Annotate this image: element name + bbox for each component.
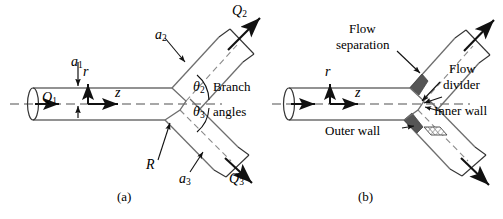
label-axis-r-a: r [83,65,88,79]
caption-a: (a) [117,190,131,203]
a2-leader [165,38,185,62]
label-flow-separation-line1: Flow [349,22,376,35]
label-a3: a3 [179,172,191,188]
coordinate-axes-a [88,84,118,104]
label-axis-r-b: r [325,65,330,79]
r-radius-leader [158,123,170,160]
label-inner-wall: Inner wall [434,104,487,117]
label-q1: Q1 [42,91,57,107]
label-outer-wall: Outer wall [325,124,380,137]
label-a2: a2 [155,28,167,44]
label-theta2: θ2 [193,80,205,96]
hatched-section-b [424,127,447,135]
label-flow-divider-line1: Flow [449,62,476,75]
label-a1: a1 [71,55,83,71]
label-branch-word: Branch [213,80,251,93]
label-theta3: θ3 [193,105,205,121]
label-radius-r: R [146,158,155,172]
label-flow-divider-line2: divider [443,78,480,91]
label-q3: Q3 [229,172,244,188]
label-angles-word: angles [213,105,246,118]
upper-branch-a [172,18,260,110]
flow-separation-leader [397,51,420,73]
label-axis-z-a: z [115,86,120,100]
bifurcation-figure [0,0,503,219]
flow-separation-zone-lower [404,113,423,133]
coordinate-axes-b [330,84,358,104]
caption-b: (b) [358,190,373,203]
a3-leader [190,152,203,172]
q2-flow-arrow [228,18,260,50]
label-flow-separation-line2: separation [336,38,389,51]
label-q2: Q2 [232,4,247,20]
flow-separation-zone-upper [410,74,428,95]
label-axis-z-b: z [355,86,360,100]
